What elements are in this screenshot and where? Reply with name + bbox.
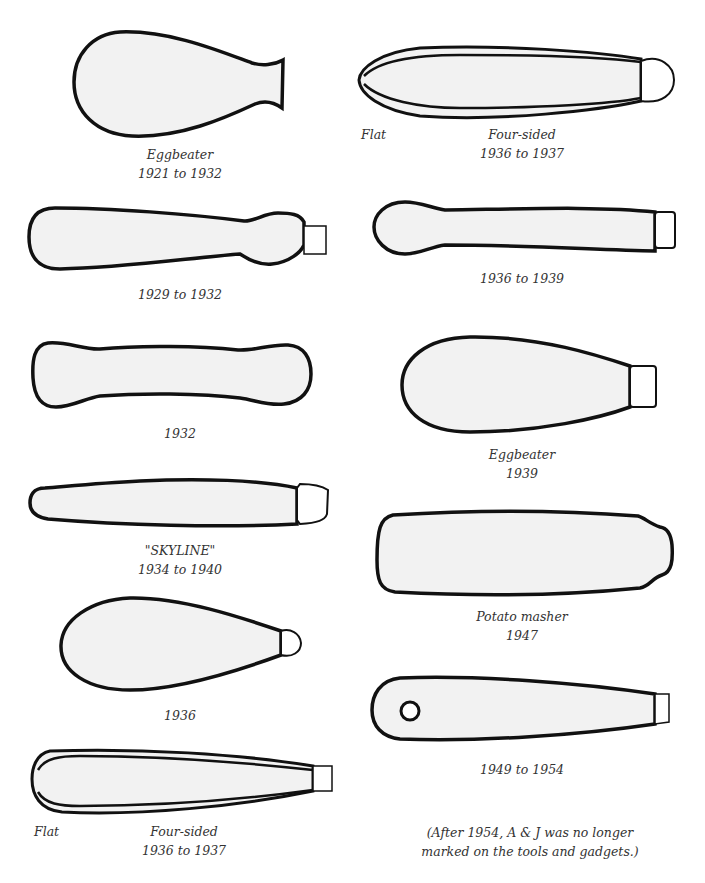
four-sided-right-flat-label: Flat (361, 125, 386, 144)
footnote-line: marked on the tools and gadgets.) (400, 842, 660, 861)
handle-1932-caption: 1932 (120, 424, 240, 443)
four-sided-left-caption: Four-sided 1936 to 1937 (124, 822, 244, 860)
handle-1929-caption: 1929 to 1932 (120, 285, 240, 304)
four-sided-right-handle-drawing (359, 47, 674, 118)
caption-line: 1947 (452, 626, 592, 645)
handle-1936-1939-drawing (374, 202, 675, 254)
handle-1936-caption: 1936 (120, 706, 240, 725)
skyline-caption: "SKYLINE" 1934 to 1940 (120, 541, 240, 579)
four-sided-left-handle-drawing (32, 750, 332, 813)
caption-line: Eggbeater (462, 445, 582, 464)
skyline-handle-drawing (30, 480, 328, 526)
eggbeater-1939-handle-drawing (402, 337, 656, 432)
caption-line: 1929 to 1932 (120, 285, 240, 304)
caption-line: 1934 to 1940 (120, 560, 240, 579)
four-sided-left-flat-label: Flat (34, 822, 59, 841)
handle-1932-drawing (33, 343, 311, 407)
caption-line: Four-sided (124, 822, 244, 841)
potato-masher-caption: Potato masher 1947 (452, 607, 592, 645)
handle-1929-drawing (29, 208, 326, 269)
potato-masher-handle-drawing (377, 511, 672, 594)
eggbeater-1939-caption: Eggbeater 1939 (462, 445, 582, 483)
caption-line: Flat (34, 822, 59, 841)
footnote: (After 1954, A & J was no longer marked … (400, 823, 660, 861)
handle-1949-1954-caption: 1949 to 1954 (462, 760, 582, 779)
footnote-line: (After 1954, A & J was no longer (400, 823, 660, 842)
caption-line: Potato masher (452, 607, 592, 626)
eggbeater-1921-handle-drawing (74, 32, 283, 136)
handle-identification-chart: Eggbeater 1921 to 1932 1929 to 1932 1932… (0, 0, 705, 883)
caption-line: Eggbeater (120, 145, 240, 164)
caption-line: 1936 to 1937 (124, 841, 244, 860)
caption-line: 1936 to 1937 (462, 144, 582, 163)
handle-1949-1954-drawing (372, 677, 669, 739)
four-sided-right-caption: Four-sided 1936 to 1937 (462, 125, 582, 163)
caption-line: 1939 (462, 464, 582, 483)
caption-line: Flat (361, 125, 386, 144)
caption-line: Four-sided (462, 125, 582, 144)
caption-line: 1949 to 1954 (462, 760, 582, 779)
handle-1936-drawing (61, 598, 301, 690)
caption-line: "SKYLINE" (120, 541, 240, 560)
caption-line: 1921 to 1932 (120, 164, 240, 183)
caption-line: 1936 to 1939 (462, 269, 582, 288)
caption-line: 1932 (120, 424, 240, 443)
eggbeater-1921-caption: Eggbeater 1921 to 1932 (120, 145, 240, 183)
handle-drawings (0, 0, 705, 883)
handle-1936-1939-caption: 1936 to 1939 (462, 269, 582, 288)
caption-line: 1936 (120, 706, 240, 725)
